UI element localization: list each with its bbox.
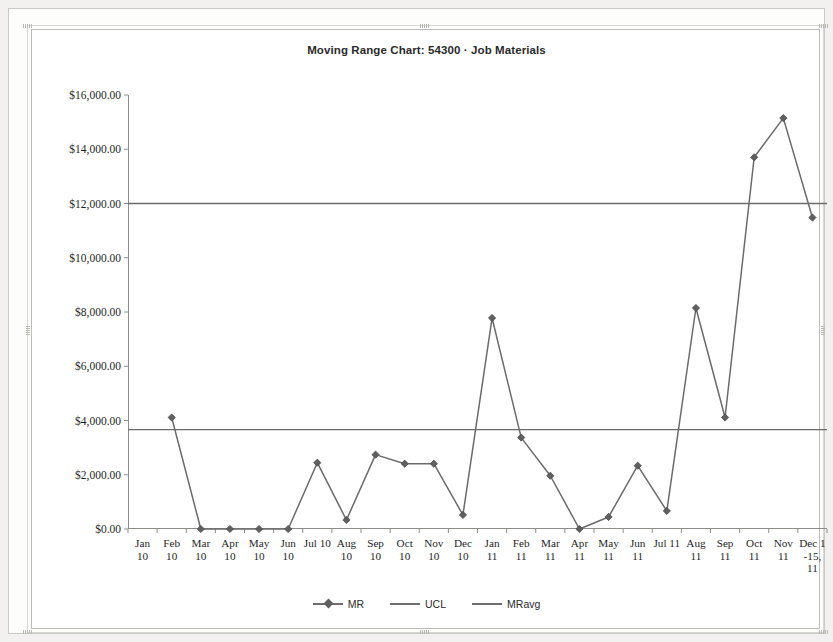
resize-handle-bottom-left[interactable] (23, 630, 32, 634)
y-axis-tick-label: $2,000.00 (75, 469, 128, 481)
plot-region: $0.00$2,000.00$4,000.00$6,000.00$8,000.0… (128, 75, 828, 530)
resize-handle-top-center[interactable] (420, 24, 429, 28)
legend-label-mr: MR (348, 598, 364, 610)
legend-label-mravg: MRavg (507, 598, 540, 610)
legend-item-mravg[interactable]: MRavg (472, 598, 540, 610)
legend-marker-mr-icon (313, 599, 343, 609)
page-canvas: Moving Range Chart: 54300 · Job Material… (0, 0, 833, 642)
resize-handle-middle-left[interactable] (26, 326, 30, 335)
legend-marker-ucl-icon (390, 599, 420, 609)
y-axis-tick-label: $10,000.00 (69, 252, 128, 264)
legend-label-ucl: UCL (425, 598, 446, 610)
chart-plot-svg (128, 75, 828, 550)
y-axis-tick-label: $0.00 (95, 523, 128, 535)
chart-area[interactable]: Moving Range Chart: 54300 · Job Material… (31, 29, 820, 629)
y-axis-tick-label: $14,000.00 (69, 143, 128, 155)
resize-handle-top-right[interactable] (819, 24, 828, 28)
y-axis-tick-label: $16,000.00 (69, 89, 128, 101)
chart-legend: MR UCL MRavg (32, 598, 821, 610)
y-axis-tick-label: $6,000.00 (75, 360, 128, 372)
legend-item-mr[interactable]: MR (313, 598, 364, 610)
y-axis-tick-label: $4,000.00 (75, 415, 128, 427)
document-page: Moving Range Chart: 54300 · Job Material… (8, 8, 825, 634)
resize-handle-bottom-center[interactable] (420, 630, 429, 634)
resize-handle-bottom-right[interactable] (819, 630, 828, 634)
chart-title: Moving Range Chart: 54300 · Job Material… (32, 44, 821, 56)
resize-handle-top-left[interactable] (23, 24, 32, 28)
y-axis-tick-label: $8,000.00 (75, 306, 128, 318)
y-axis-tick-label: $12,000.00 (69, 198, 128, 210)
x-axis-tick-label: Dec 1 -15, 11 (795, 537, 829, 575)
legend-marker-mravg-icon (472, 599, 502, 609)
legend-item-ucl[interactable]: UCL (390, 598, 446, 610)
